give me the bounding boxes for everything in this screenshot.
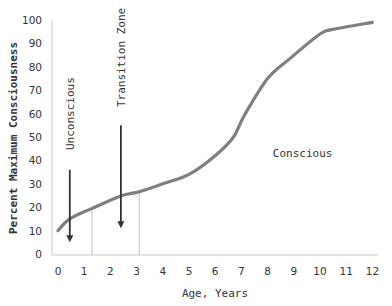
arrowhead-icon: [117, 221, 124, 228]
y-axis-ticks: 0102030405060708090100: [22, 14, 42, 260]
x-tick-label: 7: [238, 265, 245, 277]
y-tick-label: 0: [35, 248, 42, 260]
x-tick-label: 10: [313, 265, 326, 277]
y-tick-label: 50: [29, 131, 42, 143]
y-axis-title-group: Percent Maximum Consciousness: [7, 42, 20, 234]
x-tick-label: 11: [340, 265, 353, 277]
y-tick-label: 10: [29, 225, 42, 237]
y-tick-label: 100: [22, 14, 42, 26]
consciousness-series-line: [58, 22, 372, 230]
y-tick-label: 20: [29, 201, 42, 213]
x-tick-label: 8: [264, 265, 271, 277]
annotation-unconscious-label: Unconscious: [64, 77, 77, 150]
x-tick-label: 6: [212, 265, 219, 277]
axes: [52, 20, 378, 255]
x-tick-label: 12: [366, 265, 379, 277]
y-tick-label: 60: [29, 108, 42, 120]
x-tick-label: 4: [159, 265, 166, 277]
y-tick-label: 80: [29, 61, 42, 73]
y-tick-label: 30: [29, 178, 42, 190]
arrowhead-icon: [66, 235, 73, 242]
zone-boundaries: [92, 192, 139, 255]
annotation-conscious-label: Conscious: [273, 147, 333, 160]
annotation-transition-zone-label: Transition Zone: [115, 8, 128, 107]
x-tick-label: 3: [133, 265, 140, 277]
x-axis-ticks: 0123456789101112: [55, 265, 379, 277]
x-tick-label: 1: [81, 265, 88, 277]
x-tick-label: 5: [186, 265, 193, 277]
x-tick-label: 0: [55, 265, 62, 277]
x-axis-title: Age, Years: [182, 287, 248, 300]
x-tick-label: 9: [290, 265, 297, 277]
annotations: UnconsciousTransition ZoneConscious: [64, 8, 333, 243]
y-tick-label: 90: [29, 37, 42, 49]
consciousness-line-chart: Percent Maximum Consciousness 0102030405…: [0, 0, 392, 306]
y-axis-title: Percent Maximum Consciousness: [7, 42, 20, 234]
y-tick-label: 70: [29, 84, 42, 96]
x-tick-label: 2: [107, 265, 114, 277]
y-tick-label: 40: [29, 154, 42, 166]
